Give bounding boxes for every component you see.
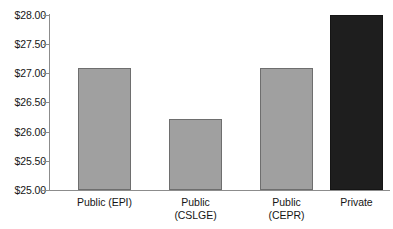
y-axis-tick-label-27: $27.00 — [14, 68, 46, 79]
bar-private — [330, 15, 383, 190]
y-axis-tick-label-25-50: $25.50 — [14, 156, 46, 167]
y-axis-tick-label-26: $26.00 — [14, 127, 46, 138]
bar-public-cslge — [169, 119, 222, 190]
x-axis-label-public-cslge-line1: Public — [181, 196, 209, 208]
y-axis-tick-label-27-50: $27.50 — [14, 39, 46, 50]
x-axis-label-public-epi-line1: Public (EPI) — [77, 196, 132, 208]
x-axis-label-public-cepr-line2: (CEPR) — [222, 209, 351, 222]
x-axis-label-private: Private — [292, 196, 393, 209]
y-axis-tick-label-28: $28.00 — [14, 10, 46, 21]
bar-chart: $28.00 $27.50 $27.00 $26.50 $26.00 $25.5… — [0, 0, 393, 229]
bar-public-cepr — [260, 68, 313, 190]
x-axis-line — [40, 190, 390, 191]
y-axis-tick-label-26-50: $26.50 — [14, 97, 46, 108]
x-axis-label-private-line1: Private — [340, 196, 372, 208]
bar-public-epi — [78, 68, 131, 190]
plot-area — [50, 15, 385, 190]
